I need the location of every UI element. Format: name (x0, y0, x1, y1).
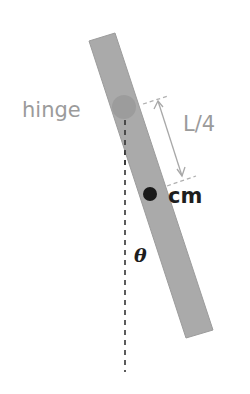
hinge-pivot (112, 95, 136, 119)
length-label: L/4 (183, 112, 215, 136)
dimension-extension-top (143, 96, 168, 104)
pendulum-diagram: hinge L/4 cm θ (0, 0, 250, 394)
dimension-arrowhead-top (154, 101, 163, 109)
center-of-mass-dot (143, 187, 157, 201)
hinge-label: hinge (22, 98, 81, 122)
dimension-arrow-line (158, 101, 182, 176)
center-of-mass-label: cm (168, 184, 202, 208)
angle-theta-label: θ (134, 244, 147, 266)
